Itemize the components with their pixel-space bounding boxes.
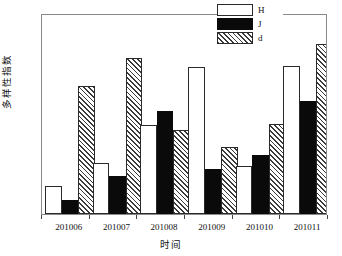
bar-201006-J xyxy=(62,200,79,214)
legend-swatch-H xyxy=(217,4,253,16)
bar-201006-H xyxy=(45,186,62,214)
x-tick-mark xyxy=(89,215,90,219)
bar-201010-H xyxy=(236,166,253,214)
plot-area xyxy=(41,14,327,215)
legend-item-d: d xyxy=(217,31,283,45)
bar-201009-H xyxy=(188,67,205,214)
bar-201008-J xyxy=(157,111,174,214)
legend-label-H: H xyxy=(258,5,265,16)
legend-label-d: d xyxy=(258,33,263,44)
x-tick-label-201006: 201006 xyxy=(42,222,96,233)
x-tick-label-201011: 201011 xyxy=(280,222,334,233)
bar-201011-J xyxy=(300,101,317,214)
x-tick-label-201010: 201010 xyxy=(233,222,287,233)
bar-201007-J xyxy=(109,176,126,214)
x-tick-label-201007: 201007 xyxy=(90,222,144,233)
bar-201008-H xyxy=(140,125,157,214)
x-tick-mark xyxy=(184,215,185,219)
bar-201010-J xyxy=(252,155,269,214)
y-axis-title: 多样性指数 xyxy=(0,31,13,131)
bar-201007-H xyxy=(93,163,110,215)
x-tick-mark xyxy=(232,215,233,219)
x-tick-mark xyxy=(279,215,280,219)
x-tick-mark xyxy=(41,215,42,219)
bar-201011-H xyxy=(283,66,300,214)
x-tick-label-201008: 201008 xyxy=(137,222,191,233)
legend-swatch-J xyxy=(217,18,253,30)
bar-201011-d xyxy=(316,44,327,214)
x-tick-mark xyxy=(136,215,137,219)
x-axis-title: 时间 xyxy=(0,237,342,251)
legend-label-J: J xyxy=(258,19,262,30)
chart-figure: 0.00.20.40.60.81.01.21.41.6 多样性指数 201006… xyxy=(0,0,342,256)
bar-201009-J xyxy=(205,169,222,214)
x-tick-label-201009: 201009 xyxy=(185,222,239,233)
legend-swatch-d xyxy=(217,32,253,44)
legend-item-J: J xyxy=(217,17,283,31)
legend-item-H: H xyxy=(217,3,283,17)
chart-legend: HJd xyxy=(217,3,283,45)
x-tick-mark xyxy=(327,215,328,219)
